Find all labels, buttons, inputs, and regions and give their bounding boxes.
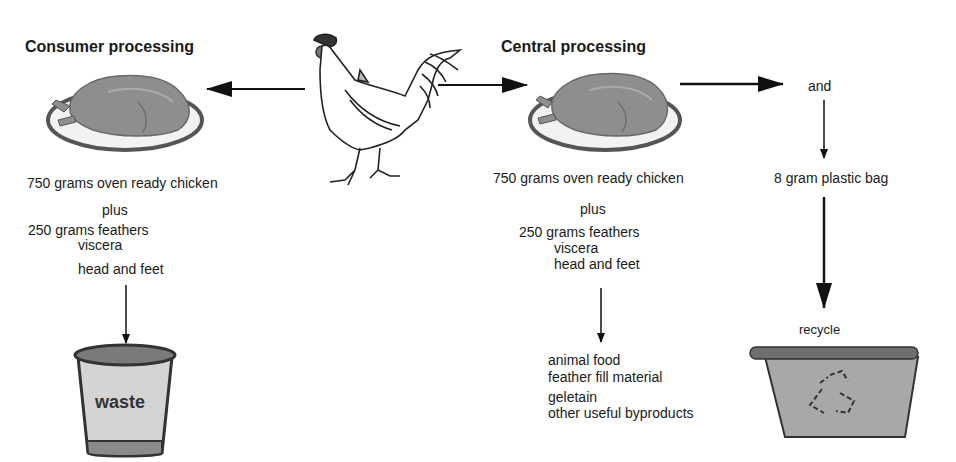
consumer-plus-label: plus — [102, 202, 128, 218]
use-feather-fill: feather fill material — [548, 369, 662, 385]
waste-label: waste — [95, 392, 145, 413]
use-geletain: geletain — [548, 389, 597, 405]
roast-chicken-plate-icon — [48, 76, 202, 150]
use-animal-food: animal food — [548, 352, 620, 368]
central-byproduct-head-feet: head and feet — [554, 256, 640, 272]
central-byproduct-feathers: 250 grams feathers — [519, 224, 640, 240]
central-product-label: 750 grams oven ready chicken — [493, 170, 684, 186]
and-label: and — [808, 78, 831, 94]
central-processing-title: Central processing — [501, 38, 646, 56]
roast-chicken-plate-icon-central — [530, 74, 680, 150]
consumer-byproduct-viscera: viscera — [78, 237, 122, 253]
central-byproduct-viscera: viscera — [554, 240, 598, 256]
consumer-processing-title: Consumer processing — [25, 38, 194, 56]
recycle-bin-icon — [750, 347, 918, 437]
recycle-label: recycle — [799, 322, 840, 337]
plastic-bag-label: 8 gram plastic bag — [774, 170, 888, 186]
use-other-byproducts: other useful byproducts — [548, 405, 694, 421]
consumer-product-label: 750 grams oven ready chicken — [27, 175, 218, 191]
consumer-byproduct-feathers: 250 grams feathers — [28, 222, 149, 238]
rooster-icon — [314, 34, 460, 185]
consumer-byproduct-head-feet: head and feet — [78, 261, 164, 277]
central-plus-label: plus — [580, 201, 606, 217]
